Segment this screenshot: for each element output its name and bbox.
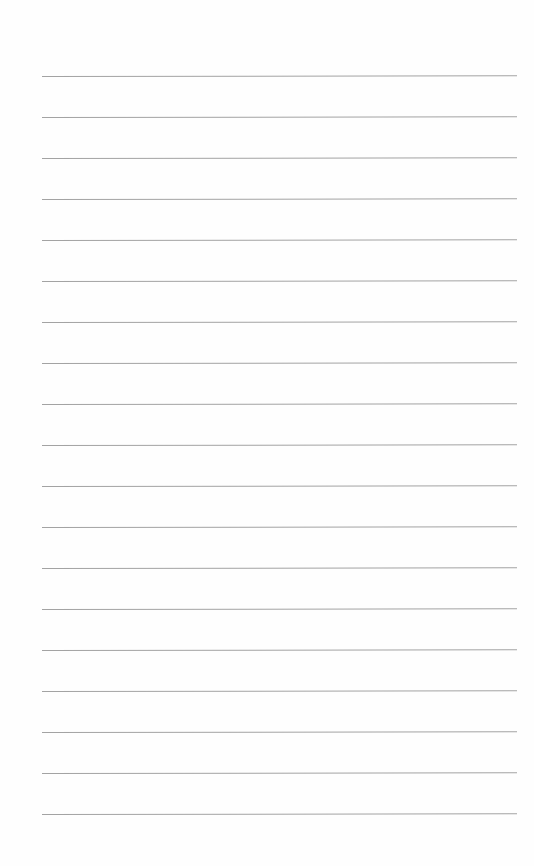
ruled-line [42,362,517,364]
ruled-line [42,772,517,774]
ruled-line [42,485,517,487]
ruled-line [42,690,517,692]
ruled-line [42,526,517,528]
ruled-line [42,239,517,241]
ruled-line [42,116,517,118]
lined-paper-page [0,0,534,866]
ruled-line [42,649,517,651]
ruled-line [42,567,517,569]
ruled-line [42,813,517,815]
ruled-line [42,321,517,323]
ruled-line [42,198,517,200]
ruled-line [42,403,517,405]
ruled-line [42,75,517,77]
ruled-line [42,608,517,610]
ruled-line [42,731,517,733]
ruled-line [42,280,517,282]
ruled-line [42,444,517,446]
ruled-line [42,157,517,159]
